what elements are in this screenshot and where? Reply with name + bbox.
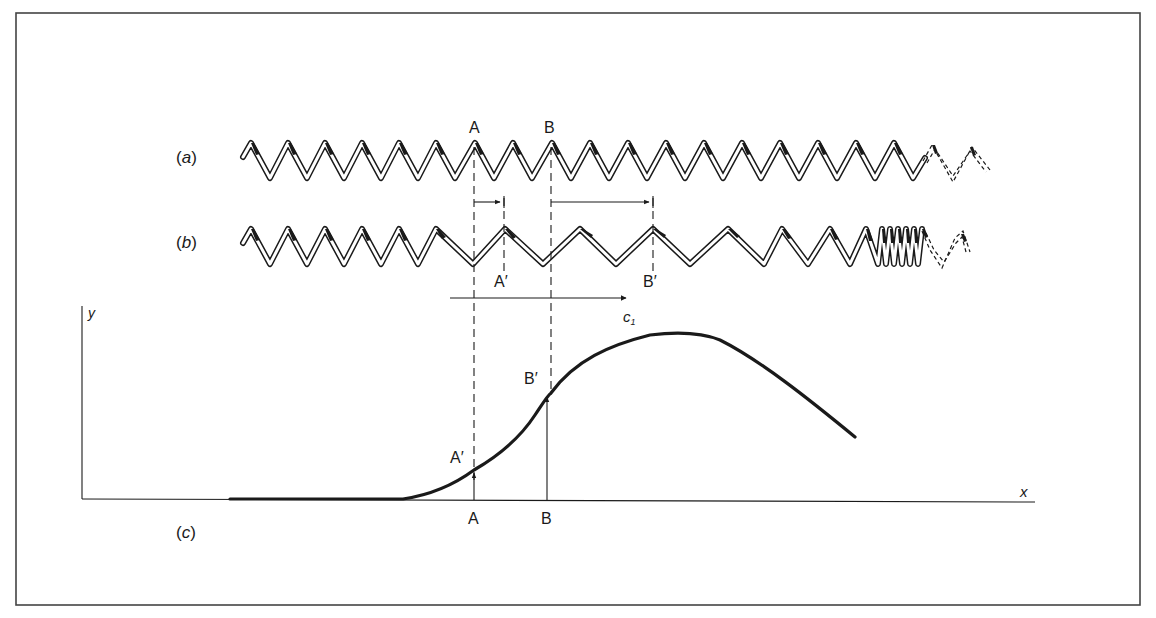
x-axis-label: x xyxy=(1019,483,1028,500)
spring-b-compressional-wave xyxy=(243,229,970,268)
point-label-A-axis: A xyxy=(468,510,479,527)
point-label-B-axis: B xyxy=(541,510,552,527)
y-axis-label: y xyxy=(87,305,96,321)
longitudinal-wave-spring-diagram: (a) (b) (c) A B A′ B′ c1 y x A′ B′ A B xyxy=(0,0,1156,618)
panel-label-a: (a) xyxy=(176,148,197,167)
figure-frame xyxy=(16,13,1140,605)
displacement-curve xyxy=(230,333,855,499)
point-label-A-prime-spring: A′ xyxy=(494,273,508,290)
point-label-A-prime-graph: A′ xyxy=(450,449,464,466)
point-label-B-prime-spring: B′ xyxy=(643,273,657,290)
panel-label-b: (b) xyxy=(176,233,197,252)
panel-label-c: (c) xyxy=(176,523,196,542)
displacement-graph xyxy=(82,306,1035,502)
point-label-A-top: A xyxy=(469,119,480,136)
x-axis xyxy=(82,499,1035,502)
spring-a-uncompressed xyxy=(243,143,990,182)
point-label-B-top: B xyxy=(544,119,555,136)
displacement-arrows xyxy=(474,196,653,208)
point-label-B-prime-graph: B′ xyxy=(524,370,538,387)
velocity-label: c1 xyxy=(623,308,636,327)
